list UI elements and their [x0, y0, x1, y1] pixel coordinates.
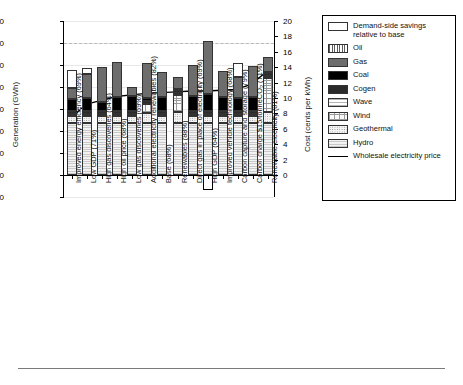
bar-segment-coal: [82, 98, 92, 111]
legend-item: Hydro: [328, 138, 451, 148]
legend-swatch-wave: [328, 98, 348, 107]
y-axis-right-tick-label: 12: [283, 78, 292, 87]
y-axis-left-tick-label: -10,000: [0, 193, 4, 202]
x-axis-tick-label: Low GDP (71%): [89, 130, 98, 183]
chart-legend: Demand-side savings relative to baseOilG…: [322, 15, 456, 201]
y-axis-right-tick: [274, 83, 278, 84]
legend-label: Wind: [353, 111, 370, 120]
y-axis-left-tick: [60, 131, 64, 132]
bar-segment-coal: [203, 94, 213, 111]
bar-segment-demand-side-savings-relative-to-base: [82, 68, 92, 75]
y-axis-left-tick: [60, 65, 64, 66]
y-axis-left-tick-label: 60,000: [0, 39, 4, 48]
y-axis-left-tick-label: 50,000: [0, 61, 4, 70]
x-axis-tick-label: Additional electricity renewables (82%): [149, 56, 158, 183]
bar-segment-wave: [173, 93, 183, 95]
bar-segment-geothermal: [157, 116, 167, 123]
y-axis-left-tick-label: 40,000: [0, 83, 4, 92]
legend-item: Geothermal: [328, 124, 451, 134]
bar-segment-wind: [82, 114, 92, 116]
y-axis-right-tick-label: 4: [283, 140, 287, 149]
bar-segment-wind: [203, 114, 213, 116]
legend-item: Wave: [328, 97, 451, 107]
y-axis-right-tick: [274, 21, 278, 22]
legend-item: Gas: [328, 57, 451, 67]
legend-label: Gas: [353, 57, 367, 66]
legend-item: Wholesale electricity price: [328, 151, 451, 160]
y-axis-right-tick: [274, 67, 278, 68]
x-axis-tick-label: High GDP (64%): [210, 128, 219, 183]
legend-label: Oil: [353, 43, 362, 52]
bar-segment-wind: [157, 114, 167, 116]
bar-segment-gas: [112, 62, 122, 96]
bar-segment-cogen: [82, 111, 92, 114]
y-axis-right-tick-label: 16: [283, 47, 292, 56]
y-axis-left-tick-label: 20,000: [0, 127, 4, 136]
y-axis-right-tick: [274, 52, 278, 53]
legend-swatch-geo: [328, 125, 348, 134]
y-axis-left-tick: [60, 21, 64, 22]
x-axis-tick-label: High gas discoveries (64%): [104, 93, 113, 183]
legend-swatch-coal: [328, 71, 348, 80]
bar-segment-cogen: [112, 111, 122, 114]
x-axis-tick-label: Renewable electricity (81%): [270, 91, 279, 183]
x-axis-tick-label: Low gas discoveries (69%): [134, 95, 143, 183]
bar-segment-wind: [112, 114, 122, 116]
legend-swatch-savings: [328, 22, 348, 31]
y-axis-right-tick-label: 14: [283, 63, 292, 72]
y-axis-right-tick-label: 20: [283, 17, 292, 26]
legend-item: Coal: [328, 70, 451, 80]
bar-segment-geothermal: [82, 116, 92, 123]
y-axis-right-tick-label: 0: [283, 171, 287, 180]
y-axis-left-tick-label: 70,000: [0, 17, 4, 26]
legend-label: Geothermal: [353, 124, 393, 133]
x-axis-tick-label: Improved energy efficiency (69%): [74, 73, 83, 183]
legend-item: Demand-side savings relative to base: [328, 21, 451, 40]
y-axis-right-tick-label: 6: [283, 124, 287, 133]
chart-figure: Generation (GWh) Cost (cents per kWh) -1…: [0, 0, 463, 385]
legend-swatch-oil: [328, 44, 348, 53]
x-axis-tick-label: Improved vehicle technology (68%): [225, 68, 234, 183]
legend-swatch-wind: [328, 112, 348, 121]
y-axis-right-tick-label: 10: [283, 94, 292, 103]
y-axis-left-tick-label: 10,000: [0, 149, 4, 158]
y-axis-left-tick: [60, 87, 64, 88]
y-axis-right-tick-label: 8: [283, 109, 287, 118]
bar-segment-cogen: [157, 111, 167, 114]
x-axis-tick-label: Renewables (88%): [180, 121, 189, 183]
gridline: [64, 197, 274, 198]
legend-item: Cogen: [328, 84, 451, 94]
x-axis-tick-label: Carbon charge $15/tonneCO2 (71%): [255, 63, 265, 183]
x-axis-tick-label: Base (68%): [164, 144, 173, 183]
y-axis-left-tick: [60, 109, 64, 110]
y-axis-left-tick-label: 30,000: [0, 105, 4, 114]
legend-item: Oil: [328, 43, 451, 53]
x-axis-tick-label: Direct gas in place of electricity (69%): [195, 59, 204, 183]
legend-swatch-cogen: [328, 85, 348, 94]
y-axis-right-tick-label: 18: [283, 32, 292, 41]
y-axis-left-tick: [60, 153, 64, 154]
legend-label: Wave: [353, 97, 372, 106]
bar-segment-gas: [82, 74, 92, 98]
footer-rule: [18, 368, 445, 369]
y-axis-right-title: Cost (cents per kWh): [303, 60, 312, 170]
legend-label: Cogen: [353, 84, 375, 93]
legend-label: Demand-side savings relative to base: [353, 21, 451, 40]
y-axis-right-tick: [274, 36, 278, 37]
legend-swatch-hydro: [328, 139, 348, 148]
y-axis-left-tick-label: 0: [0, 171, 4, 180]
y-axis-left-title: Generation (GWh): [11, 60, 20, 170]
legend-label: Hydro: [353, 138, 373, 147]
y-axis-left-tick: [60, 197, 64, 198]
legend-swatch-line: [328, 156, 348, 157]
bar-segment-coal: [157, 97, 167, 111]
bar-segment-gas: [157, 72, 167, 97]
bar-segment-geothermal: [203, 116, 213, 123]
bar-segment-coal: [112, 97, 122, 111]
legend-item: Wind: [328, 111, 451, 121]
bar-segment-gas: [173, 77, 183, 89]
bar-segment-wind: [173, 95, 183, 112]
y-axis-right-tick-label: 2: [283, 155, 287, 164]
legend-label: Wholesale electricity price: [353, 151, 441, 160]
bar-segment-coal: [173, 89, 183, 91]
